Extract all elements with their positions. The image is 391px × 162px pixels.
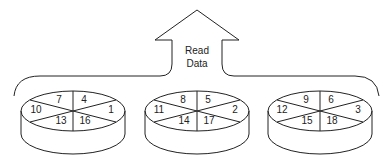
segment-label: 1 — [108, 104, 114, 115]
segment-label: 14 — [178, 115, 190, 126]
segment-label: 16 — [79, 115, 91, 126]
disk-1: 7 4 10 1 13 16 — [21, 91, 125, 154]
segment-label: 2 — [232, 104, 238, 115]
segment-label: 18 — [326, 115, 338, 126]
disk-3: 9 6 12 3 15 18 — [268, 91, 372, 154]
segment-label: 13 — [55, 115, 67, 126]
segment-label: 12 — [276, 104, 288, 115]
segment-label: 7 — [56, 94, 62, 105]
segment-label: 17 — [203, 115, 215, 126]
raid-stripe-diagram: Read Data 7 4 10 1 13 16 8 5 11 2 14 17 … — [0, 0, 391, 162]
arrow-label-line1: Read — [185, 45, 209, 56]
segment-label: 3 — [355, 104, 361, 115]
segment-label: 11 — [154, 104, 165, 115]
segment-label: 15 — [301, 115, 313, 126]
segment-label: 4 — [81, 94, 87, 105]
disk-2: 8 5 11 2 14 17 — [145, 91, 249, 154]
segment-label: 8 — [180, 94, 186, 105]
segment-label: 9 — [303, 94, 309, 105]
segment-label: 6 — [328, 94, 334, 105]
segment-label: 10 — [30, 104, 42, 115]
arrow-label-line2: Data — [186, 58, 208, 69]
segment-label: 5 — [205, 94, 211, 105]
